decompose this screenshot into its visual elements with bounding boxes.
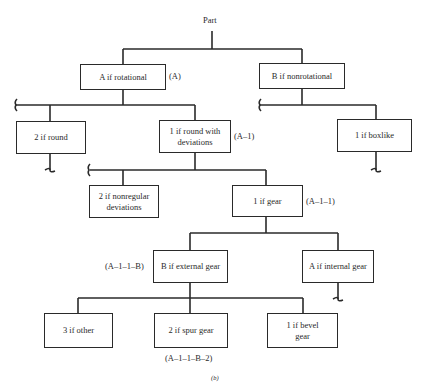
node-label: 2 if nonregular deviations — [95, 191, 153, 212]
node-label: B if external gear — [161, 261, 221, 272]
node-label: A if rotational — [99, 72, 147, 83]
node-a-if-rotational: A if rotational — [80, 64, 166, 90]
code-label-a-1-1-b: (A–1–1–B) — [105, 261, 144, 271]
node-label: 1 if bevel gear — [280, 320, 326, 341]
root-node-part: Part — [203, 15, 217, 25]
node-label: 2 if spur gear — [168, 325, 214, 336]
figure-caption: (b) — [211, 374, 219, 381]
node-label: A if internal gear — [309, 261, 367, 272]
node-1-if-round-with-deviations: 1 if round with deviations — [159, 120, 231, 153]
node-2-if-nonregular-deviations: 2 if nonregular deviations — [89, 185, 159, 218]
node-label: 1 if boxlike — [355, 130, 394, 141]
node-1-if-gear: 1 if gear — [232, 185, 303, 217]
node-label: 1 if round with deviations — [164, 126, 226, 147]
node-label: 2 if round — [34, 132, 68, 143]
code-label-a-1-1: (A–1–1) — [306, 196, 335, 206]
node-b-if-external-gear: B if external gear — [153, 250, 228, 283]
node-1-if-boxlike: 1 if boxlike — [337, 119, 412, 152]
node-label: 1 if gear — [253, 196, 281, 207]
node-a-if-internal-gear: A if internal gear — [302, 250, 374, 283]
node-2-if-spur-gear: 2 if spur gear — [154, 313, 228, 348]
node-2-if-round: 2 if round — [16, 121, 86, 154]
code-label-a-1: (A–1) — [234, 131, 254, 141]
node-b-if-nonrotational: B if nonrotational — [259, 63, 345, 89]
classification-tree-diagram: Part A if rotational (A) B if nonrotatio… — [0, 0, 427, 388]
code-label-a: (A) — [169, 71, 181, 81]
node-1-if-bevel-gear: 1 if bevel gear — [267, 313, 338, 348]
node-3-if-other: 3 if other — [44, 313, 113, 348]
node-label: 3 if other — [63, 325, 94, 336]
node-label: B if nonrotational — [272, 71, 332, 82]
code-label-a-1-1-b-2: (A–1–1–B–2) — [165, 353, 212, 363]
